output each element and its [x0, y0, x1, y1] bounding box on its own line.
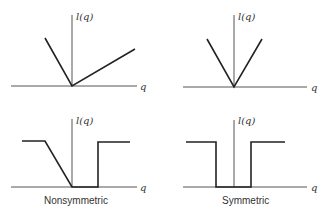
- x-axis-label: q: [140, 182, 146, 193]
- panel-bottom-right: l(q) q Symmetric: [183, 115, 317, 206]
- caption-nonsymmetric: Nonsymmetric: [44, 195, 108, 206]
- panel-bottom-left: l(q) q Nonsymmetric: [11, 115, 146, 206]
- y-axis-label: l(q): [238, 11, 256, 22]
- asymmetric-linear-loss-curve: [45, 38, 135, 86]
- y-axis-label: l(q): [76, 11, 94, 22]
- asymmetric-step-loss-curve: [22, 141, 130, 187]
- y-axis-label: l(q): [238, 115, 256, 126]
- x-axis-label: q: [311, 82, 317, 93]
- caption-symmetric: Symmetric: [222, 195, 269, 206]
- symmetric-step-loss-curve: [186, 142, 285, 187]
- loss-function-figure: l(q) q l(q) q l(q) q Nonsymmetric l(q) q…: [0, 0, 324, 216]
- panel-top-right: l(q) q: [183, 11, 317, 93]
- y-axis-label: l(q): [76, 115, 94, 126]
- x-axis-label: q: [140, 81, 146, 92]
- x-axis-label: q: [311, 182, 317, 193]
- panel-top-left: l(q) q: [11, 11, 146, 92]
